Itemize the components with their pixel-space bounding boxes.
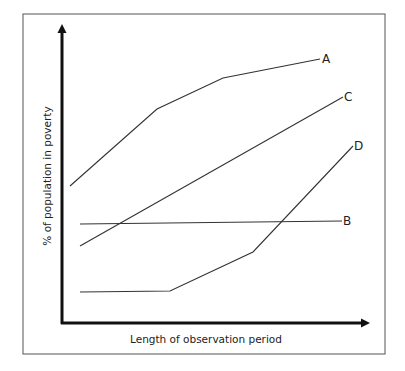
series-d-line [80, 146, 353, 292]
chart: A C B D Length of observation period % o… [0, 0, 405, 371]
series-b-line [80, 221, 342, 224]
x-axis-label: Length of observation period [130, 333, 282, 345]
series-a-line [70, 59, 320, 186]
series-a-label: A [322, 52, 331, 66]
y-axis-label: % of population in poverty [41, 106, 53, 245]
series-c-label: C [344, 90, 352, 104]
x-axis-arrow-icon [361, 319, 370, 328]
series-b-label: B [343, 214, 351, 228]
chart-frame [23, 14, 385, 354]
series-d-label: D [354, 139, 363, 153]
y-axis-arrow-icon [58, 24, 67, 33]
